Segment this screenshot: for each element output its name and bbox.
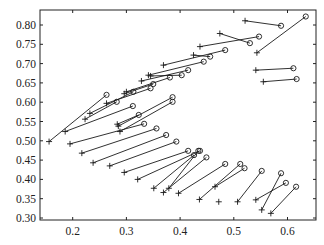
connector-line (220, 33, 250, 43)
y-tick-label: 0.30 (16, 212, 36, 224)
connector-line (256, 68, 294, 70)
data-segment (254, 14, 308, 56)
circle-marker (204, 155, 209, 160)
data-segment (259, 171, 284, 213)
connector-line (120, 102, 173, 132)
y-tick-label: 0.70 (16, 58, 36, 70)
connector-line (49, 95, 106, 142)
plus-marker (217, 30, 223, 36)
x-tick-label: 0.5 (227, 225, 242, 237)
connector-line (169, 151, 199, 188)
data-segment (87, 89, 136, 116)
data-segment (62, 103, 135, 134)
connector-line (82, 128, 157, 153)
plus-marker (138, 78, 144, 84)
data-segment (253, 66, 296, 74)
connector-line (70, 124, 144, 144)
circle-marker (259, 168, 264, 173)
connector-line (271, 187, 296, 214)
connector-line (65, 106, 133, 131)
x-tick-label: 0.3 (119, 225, 134, 237)
data-segment (115, 95, 175, 130)
y-tick-label: 0.50 (16, 135, 36, 147)
circle-marker (174, 139, 179, 144)
circle-marker (293, 184, 298, 189)
plus-marker (160, 62, 166, 68)
plus-marker (260, 79, 266, 85)
plus-marker (135, 176, 141, 182)
scatter-chart: 0.20.30.40.50.6 0.300.350.400.450.500.55… (0, 0, 324, 245)
circle-marker (164, 132, 169, 137)
connector-line (151, 75, 182, 76)
plus-marker (79, 150, 85, 156)
connector-line (215, 168, 245, 187)
plus-marker (90, 160, 96, 166)
connector-line (257, 17, 306, 53)
plus-marker (259, 207, 265, 213)
connector-line (256, 183, 286, 200)
plus-marker (82, 116, 88, 122)
x-axis: 0.20.30.40.50.6 (66, 10, 295, 237)
x-tick-label: 0.6 (280, 225, 295, 237)
connector-line (200, 37, 259, 47)
connector-line (107, 88, 151, 103)
connector-line (263, 79, 296, 82)
data-segment (253, 180, 289, 203)
connector-line (178, 164, 225, 193)
plus-marker (121, 169, 127, 175)
plus-marker (253, 197, 259, 203)
plus-marker (67, 141, 73, 147)
plus-marker (197, 44, 203, 50)
plus-marker (107, 163, 113, 169)
plus-marker (242, 18, 248, 24)
data-segment (260, 76, 299, 84)
connector-line (238, 171, 262, 202)
connector-line (124, 151, 188, 173)
y-tick-label: 0.35 (16, 193, 36, 205)
plus-marker (253, 67, 259, 73)
x-tick-label: 0.4 (173, 225, 188, 237)
data-segment (67, 121, 147, 147)
plus-marker (175, 190, 181, 196)
connector-line (163, 50, 225, 65)
data-segment (151, 152, 197, 191)
y-tick-label: 0.65 (16, 77, 36, 89)
data-segment (217, 30, 253, 45)
data-segment (235, 168, 265, 204)
y-tick-label: 0.60 (16, 96, 36, 108)
y-tick-label: 0.45 (16, 154, 36, 166)
connector-line (262, 173, 281, 210)
y-tick-label: 0.40 (16, 173, 36, 185)
connector-line (245, 21, 281, 26)
plus-marker (62, 129, 68, 135)
data-segment (175, 161, 227, 196)
plus-marker (216, 199, 222, 205)
connector-line (199, 164, 240, 200)
data-segment (242, 18, 284, 29)
data-segment (166, 148, 201, 191)
y-tick-label: 0.75 (16, 38, 36, 50)
y-tick-label: 0.80 (16, 19, 36, 31)
data-segment (160, 47, 227, 68)
y-tick-label: 0.55 (16, 116, 36, 128)
connector-line (110, 142, 177, 166)
x-tick-label: 0.2 (66, 225, 81, 237)
plot-area (46, 14, 308, 216)
